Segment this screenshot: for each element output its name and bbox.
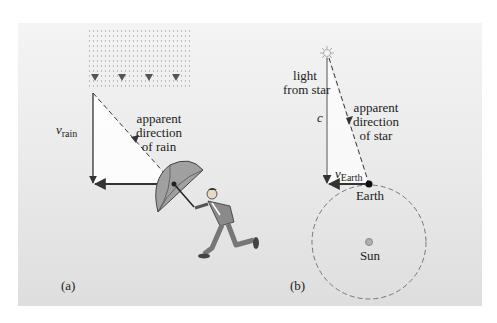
panel-b-label: (b)	[290, 279, 305, 293]
diagram-svg	[0, 0, 497, 323]
c-label: c	[317, 111, 323, 125]
sun-dot	[366, 239, 373, 246]
sun-label: Sun	[357, 249, 383, 263]
rain-field	[88, 27, 191, 90]
earth-label: Earth	[354, 189, 386, 203]
v-rain-label: vrain	[56, 123, 77, 141]
apparent-direction-rain-label: apparent direction of rain	[134, 112, 184, 154]
v-earth-label: vEarth	[335, 167, 362, 185]
panel-a-label: (a)	[61, 279, 75, 293]
apparent-direction-star-label: apparent direction of star	[351, 101, 401, 143]
running-man-umbrella	[156, 161, 259, 259]
star-icon	[320, 46, 334, 60]
light-from-star-label: light from star	[283, 69, 327, 97]
earth-dot	[366, 181, 373, 188]
